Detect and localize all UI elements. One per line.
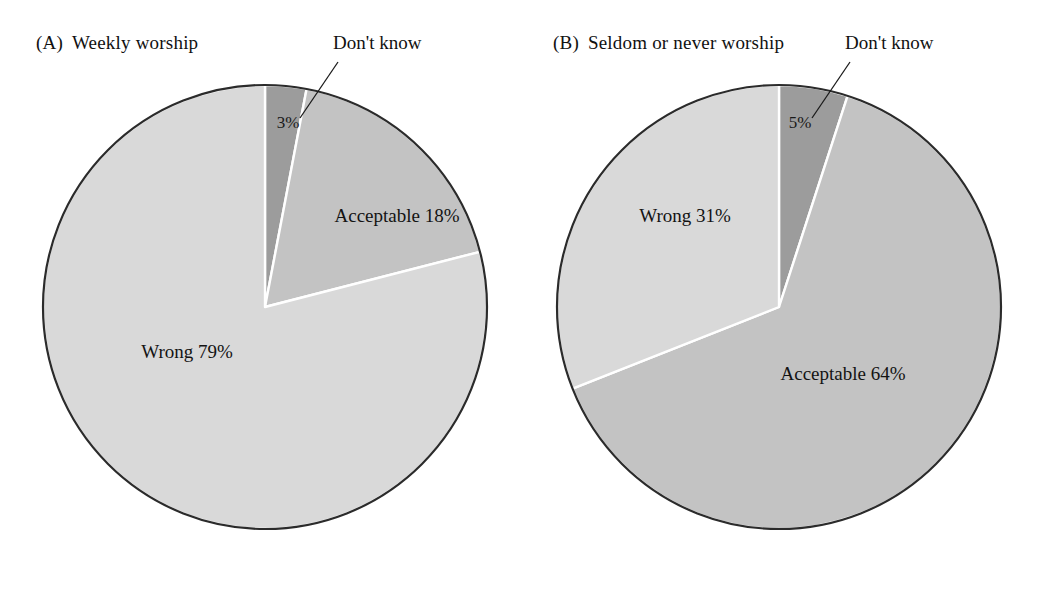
pie-chart-a [43, 85, 487, 529]
pie-charts-svg: 3%Acceptable 18%Wrong 79%5%Wrong 31%Acce… [0, 0, 1039, 592]
panel-b-slice-label-acceptable: Acceptable 64% [780, 363, 905, 384]
panel-a-slice-label-acceptable: Acceptable 18% [334, 205, 459, 226]
pie-chart-b [557, 85, 1001, 529]
panel-b-slice-label-wrong: Wrong 31% [639, 205, 731, 226]
panel-a-slice-label-wrong: Wrong 79% [141, 341, 233, 362]
panel-a-slice-label-dont-know: 3% [277, 113, 300, 132]
figure-two-pie-charts: (A)Weekly worship (B)Seldom or never wor… [0, 0, 1039, 592]
panel-b-slice-label-dont-know: 5% [789, 113, 812, 132]
